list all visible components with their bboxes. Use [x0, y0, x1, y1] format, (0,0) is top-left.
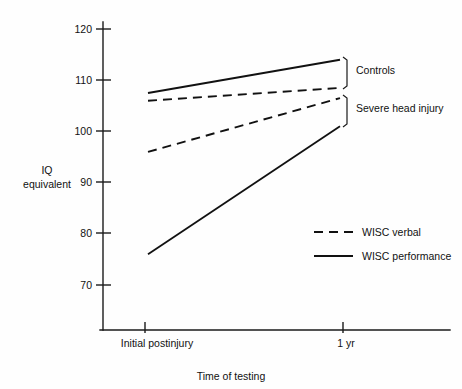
legend-label-wisc-verbal: WISC verbal [362, 226, 421, 238]
legend-label-wisc-performance: WISC performance [362, 250, 451, 262]
x-axis-title: Time of testing [197, 370, 266, 382]
y-tick-label-80: 80 [80, 227, 92, 239]
y-tick-label-110: 110 [75, 74, 92, 86]
legend: WISC verbal WISC performance [314, 226, 451, 262]
y-tick-label-70: 70 [80, 279, 92, 291]
x-tick-label-oneyear: 1 yr [337, 337, 355, 349]
y-axis-title-line2: equivalent [23, 178, 71, 190]
brace-controls [343, 57, 347, 89]
brace-severe-head-injury [343, 95, 347, 127]
series-line-severe-verbal [148, 98, 340, 152]
y-tick-label-120: 120 [74, 23, 92, 35]
series-line-controls-performance [148, 60, 340, 93]
y-tick-label-100: 100 [74, 125, 92, 137]
annotation-controls: Controls [356, 64, 395, 76]
series-line-severe-performance [148, 126, 340, 254]
annotation-severe-head-injury: Severe head injury [356, 102, 444, 114]
y-tick-label-90: 90 [80, 176, 92, 188]
iq-equivalent-line-chart: 120 110 100 90 80 70 IQ equivalent Initi… [0, 0, 462, 389]
series-line-controls-verbal [148, 88, 340, 101]
x-tick-label-initial: Initial postinjury [121, 337, 194, 349]
chart-figure: 120 110 100 90 80 70 IQ equivalent Initi… [0, 0, 462, 389]
y-axis-title-line1: IQ [41, 164, 52, 176]
